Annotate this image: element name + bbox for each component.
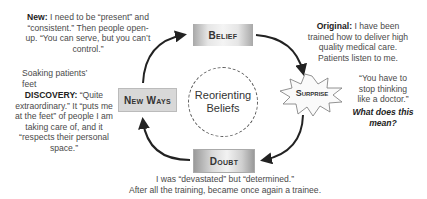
arrow-surprise-to-doubt bbox=[264, 115, 303, 160]
doubt-line-1: I was “devastated” but “determined.” bbox=[100, 174, 350, 185]
soaking-annotation: Soaking patients’ feet bbox=[22, 68, 102, 89]
stage-belief: Belief bbox=[193, 24, 253, 46]
stage-surprise: Surprise bbox=[287, 88, 337, 98]
doubt-annotation: I was “devastated” but “determined.” Aft… bbox=[100, 174, 350, 195]
center-title-line2: Beliefs bbox=[206, 102, 239, 115]
stage-doubt: Doubt bbox=[193, 149, 255, 173]
doubt-line-2: After all the training, became once agai… bbox=[100, 185, 350, 196]
center-title-line1: Reorienting bbox=[195, 89, 251, 102]
quote-annotation: “You have to stop thinking like a doctor… bbox=[352, 73, 414, 105]
question-annotation: What does this mean? bbox=[350, 107, 416, 128]
center-circle: Reorienting Beliefs bbox=[188, 67, 258, 137]
stage-new-ways: New Ways bbox=[118, 88, 177, 112]
arrow-doubt-to-newways bbox=[143, 121, 190, 160]
arrow-belief-to-surprise bbox=[256, 35, 303, 72]
original-annotation: Original: I have been trained how to del… bbox=[304, 21, 412, 63]
new-annotation: New: I need to be “present” and “consist… bbox=[22, 12, 154, 54]
discovery-annotation: DISCOVERY: “Quite extraordinary.” It “pu… bbox=[14, 90, 114, 153]
